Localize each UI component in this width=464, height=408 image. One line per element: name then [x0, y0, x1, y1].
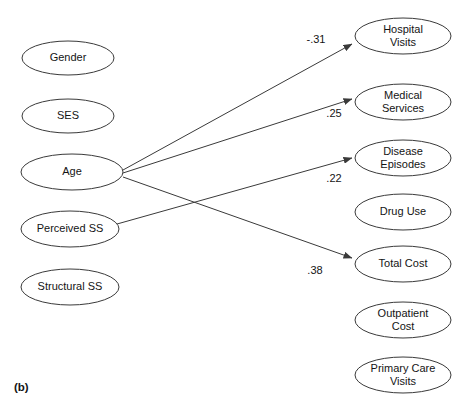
node-label-hospital-visits: Hospital [383, 23, 423, 35]
node-disease-episodes: DiseaseEpisodes [355, 140, 451, 176]
node-drug-use: Drug Use [355, 194, 451, 230]
path-arrow-perceived-ss-to-disease-episodes [117, 158, 352, 224]
path-coefficient-age-to-hospital-visits: -.31 [307, 33, 326, 45]
path-arrow-age-to-total-cost [123, 177, 352, 258]
node-perceived-ss: Perceived SS [21, 211, 119, 247]
node-label-primary-care-visits: Primary Care [371, 362, 436, 374]
path-coefficient-age-to-medical-services: .25 [326, 107, 341, 119]
node-label-ses: SES [57, 109, 79, 121]
node-hospital-visits: HospitalVisits [355, 18, 451, 54]
path-diagram-figure: GenderSESAgePerceived SSStructural SS Ho… [0, 0, 464, 408]
outcome-nodes-layer: HospitalVisitsMedicalServicesDiseaseEpis… [355, 18, 451, 393]
node-label-perceived-ss: Perceived SS [37, 222, 104, 234]
node-structural-ss: Structural SS [21, 269, 119, 305]
figure-caption: (b) [14, 381, 29, 393]
node-label-disease-episodes-line2: Episodes [380, 158, 426, 170]
node-total-cost: Total Cost [355, 246, 451, 282]
node-label-hospital-visits-line2: Visits [390, 36, 417, 48]
path-arrow-age-to-hospital-visits [123, 44, 352, 170]
node-label-gender: Gender [50, 51, 87, 63]
node-label-disease-episodes: Disease [383, 145, 423, 157]
node-outpatient-cost: OutpatientCost [355, 302, 451, 338]
node-primary-care-visits: Primary CareVisits [355, 357, 451, 393]
node-age: Age [21, 154, 123, 190]
paths-layer [117, 44, 352, 258]
node-label-outpatient-cost-line2: Cost [392, 320, 415, 332]
node-label-primary-care-visits-line2: Visits [390, 375, 417, 387]
path-coefficients-layer: -.31.25.22.38 [307, 33, 342, 276]
node-ses: SES [22, 99, 114, 133]
node-medical-services: MedicalServices [355, 84, 451, 120]
node-label-structural-ss: Structural SS [38, 280, 103, 292]
path-arrow-age-to-medical-services [123, 99, 352, 173]
path-coefficient-perceived-ss-to-disease-episodes: .22 [326, 172, 341, 184]
node-label-medical-services-line2: Services [382, 102, 425, 114]
predictor-nodes-layer: GenderSESAgePerceived SSStructural SS [21, 41, 123, 305]
node-gender: Gender [22, 41, 114, 75]
node-label-outpatient-cost: Outpatient [378, 307, 429, 319]
node-label-age: Age [62, 165, 82, 177]
node-label-medical-services: Medical [384, 89, 422, 101]
path-diagram-canvas: GenderSESAgePerceived SSStructural SS Ho… [0, 0, 464, 408]
path-coefficient-age-to-total-cost: .38 [307, 264, 322, 276]
node-label-drug-use: Drug Use [380, 205, 426, 217]
node-label-total-cost: Total Cost [379, 257, 428, 269]
